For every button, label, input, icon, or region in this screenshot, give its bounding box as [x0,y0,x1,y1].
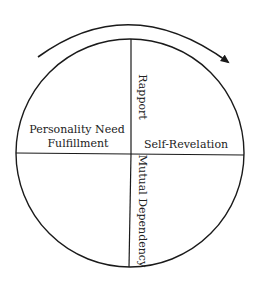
curved-arrow-icon [38,25,228,62]
label-mutual-dependency: Mutual Dependency [136,155,149,268]
label-self-revelation: Self-Revelation [144,138,228,151]
vertical-divider-bottom [129,154,131,267]
wheel-theory-diagram: Personality Need Fulfillment Self-Revela… [0,0,256,290]
horizontal-divider [16,153,244,155]
label-personality-need: Personality Need [29,123,124,136]
label-rapport: Rapport [136,74,149,120]
label-fulfillment: Fulfillment [47,137,109,150]
